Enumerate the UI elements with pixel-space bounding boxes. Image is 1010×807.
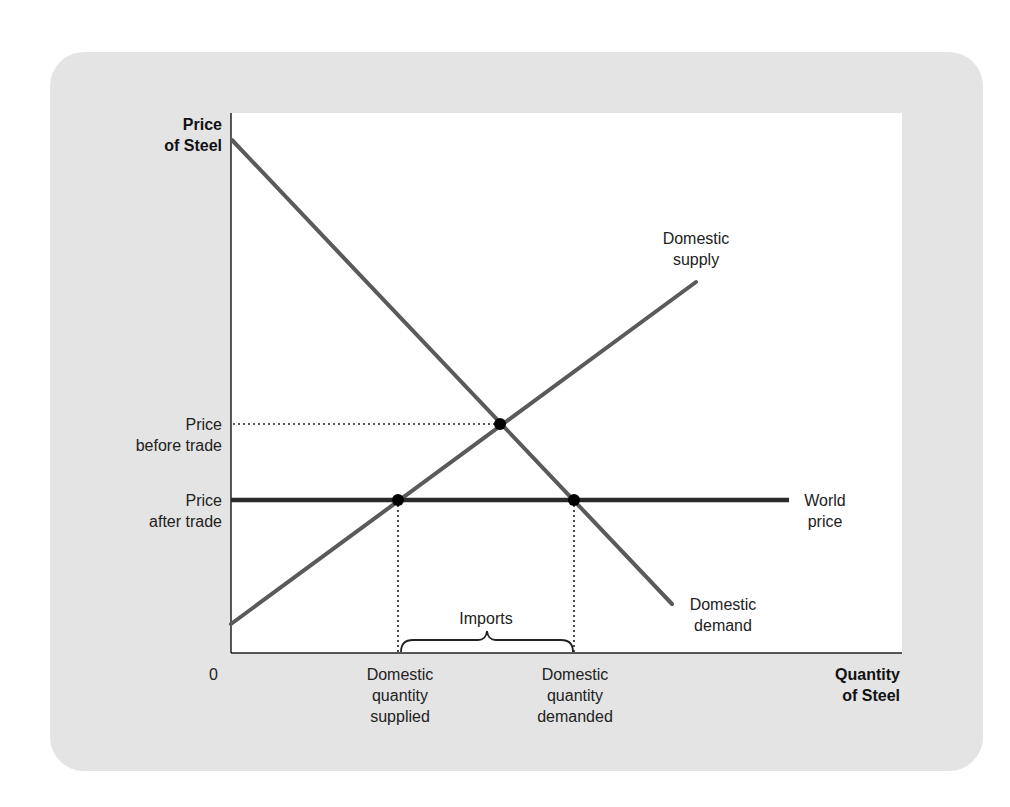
supply-curve: [231, 282, 696, 624]
demand-label: Domestic demand: [670, 594, 776, 636]
price-after-line2: after trade: [110, 511, 222, 532]
y-axis-label-line1: Price: [120, 114, 222, 135]
qs-line2: quantity: [348, 685, 452, 706]
demand-label-line1: Domestic: [670, 594, 776, 615]
imports-brace: [401, 631, 573, 652]
x-axis-label-line1: Quantity: [790, 664, 900, 685]
supply-label-line2: supply: [636, 249, 756, 270]
qs-line3: supplied: [348, 706, 452, 727]
world-price-line1: World: [790, 490, 860, 511]
demand-label-line2: demand: [670, 615, 776, 636]
demand-curve: [232, 140, 672, 604]
world-price-label: World price: [790, 490, 860, 532]
equilibrium-point: [494, 418, 506, 430]
qd-line1: Domestic: [520, 664, 630, 685]
qd-line2: quantity: [520, 685, 630, 706]
supply-world-point: [392, 494, 404, 506]
price-before-line1: Price: [110, 414, 222, 435]
quantity-demanded-label: Domestic quantity demanded: [520, 664, 630, 727]
imports-label: Imports: [436, 608, 536, 629]
origin-label: 0: [209, 664, 218, 685]
world-price-line2: price: [790, 511, 860, 532]
supply-label-line1: Domestic: [636, 228, 756, 249]
price-after-trade-label: Price after trade: [110, 490, 222, 532]
x-axis-label: Quantity of Steel: [790, 664, 900, 706]
y-axis-label-line2: of Steel: [120, 135, 222, 156]
qd-line3: demanded: [520, 706, 630, 727]
x-axis-label-line2: of Steel: [790, 685, 900, 706]
price-after-line1: Price: [110, 490, 222, 511]
price-before-trade-label: Price before trade: [110, 414, 222, 456]
y-axis-label: Price of Steel: [120, 114, 222, 156]
supply-label: Domestic supply: [636, 228, 756, 270]
quantity-supplied-label: Domestic quantity supplied: [348, 664, 452, 727]
demand-world-point: [568, 494, 580, 506]
qs-line1: Domestic: [348, 664, 452, 685]
price-before-line2: before trade: [110, 435, 222, 456]
